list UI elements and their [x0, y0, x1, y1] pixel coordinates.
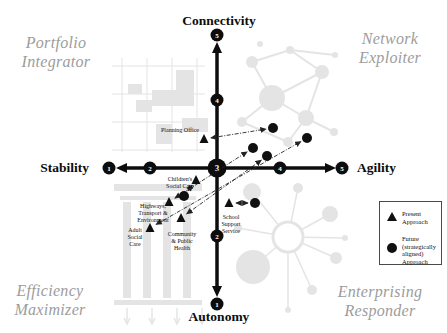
- quadrant-label-network-exploiter: Network Exploiter: [359, 29, 421, 67]
- svg-text:5: 5: [215, 32, 219, 40]
- axis-tick-5: 5: [336, 162, 349, 175]
- future-marker-community-public-health: [262, 151, 272, 161]
- axis-tick-3: 3: [208, 159, 227, 178]
- present-approach-triangle-icon: [387, 212, 397, 221]
- future-marker-highways-transport-environment: [248, 143, 258, 153]
- axis-tick-1: 1: [103, 162, 116, 175]
- connector-planning-office: [211, 129, 266, 138]
- axis-arrowhead-left: [116, 163, 127, 173]
- svg-text:4: 4: [278, 165, 282, 173]
- svg-text:2: 2: [148, 165, 152, 173]
- axes: 123455421: [103, 29, 349, 311]
- legend-present-label: Present Approach: [402, 210, 428, 225]
- axis-tick-4: 4: [274, 162, 287, 175]
- svg-text:1: 1: [215, 301, 219, 309]
- quadrant-label-portfolio-integrator: Portfolio Integrator: [22, 33, 91, 71]
- service-label-planning-office: Planning Office: [161, 127, 199, 134]
- axis-label-agility: Agility: [353, 160, 396, 176]
- future-marker-school-support-service: [250, 198, 260, 208]
- axis-arrowhead-right: [325, 163, 336, 173]
- axis-tick-5: 5: [211, 29, 224, 42]
- svg-text:2: 2: [215, 233, 219, 241]
- future-approach-circle-icon: [387, 243, 397, 253]
- axis-label-stability: Stability: [40, 160, 93, 176]
- floor-plan-grid-motif: [112, 58, 208, 152]
- connector-highways-transport-environment: [175, 152, 247, 198]
- axis-tick-4: 4: [211, 94, 224, 107]
- svg-text:5: 5: [340, 165, 344, 173]
- service-label-highways-transport-environment: Highways, Transport & Environment: [137, 203, 168, 224]
- axis-tick-2: 2: [144, 162, 157, 175]
- legend-item-future: Future (strategically aligned) Approach: [387, 235, 437, 265]
- svg-text:4: 4: [215, 97, 219, 105]
- service-label-school-support-service: School Support Service: [221, 214, 240, 235]
- future-marker-planning-office: [268, 123, 278, 133]
- service-label-children-s-social-care: Children's Social Care: [166, 176, 194, 190]
- svg-text:1: 1: [107, 165, 111, 173]
- present-marker-school-support-service: [225, 198, 234, 207]
- present-marker-planning-office: [200, 134, 209, 143]
- quadrant-label-efficiency-maximizer: Efficiency Maximizer: [14, 281, 85, 319]
- strategy-quadrant-figure: 123455421 Connectivity Autonomy Stabilit…: [0, 0, 447, 333]
- axis-arrowhead-down: [212, 286, 222, 297]
- legend-future-label: Future (strategically aligned) Approach: [402, 235, 436, 265]
- service-label-adult-social-care: Adult Social Care: [128, 227, 143, 248]
- future-marker-adult-social-care: [302, 133, 312, 143]
- axis-label-autonomy: Autonomy: [189, 309, 250, 325]
- service-label-community-public-health: Community & Public Health: [168, 231, 197, 252]
- legend-item-present: Present Approach: [387, 210, 437, 225]
- legend-box: Present Approach Future (strategically a…: [379, 201, 442, 265]
- axis-label-connectivity: Connectivity: [182, 13, 256, 29]
- axis-arrowhead-up: [212, 42, 222, 53]
- quadrant-label-enterprising-responder: Enterprising Responder: [338, 282, 423, 320]
- future-marker-children-s-social-care: [179, 191, 189, 201]
